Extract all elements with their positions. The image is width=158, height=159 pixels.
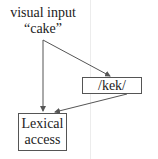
input-word: “cake” <box>4 22 82 36</box>
arrow-input-to-phonology <box>43 40 110 76</box>
phonology-box-label: /kek/ <box>98 78 126 93</box>
arrow-phonology-to-lexical <box>55 94 127 112</box>
lexical-access-box: Lexical access <box>18 113 67 151</box>
input-label: visual input <box>4 6 82 20</box>
lexical-box-line1: Lexical <box>19 116 66 132</box>
lexical-box-line2: access <box>19 132 66 148</box>
phonology-box: /kek/ <box>82 77 142 94</box>
